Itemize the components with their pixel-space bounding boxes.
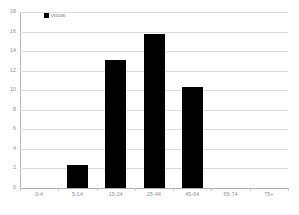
x-axis-tick-label: 45-64 (185, 192, 199, 197)
x-axis-tick-mark (97, 188, 98, 191)
x-axis-tick-label: 75+ (264, 192, 273, 197)
x-axis-tick-mark (288, 188, 289, 191)
y-axis-tick-label: 10 (0, 88, 16, 93)
x-axis-tick-mark (135, 188, 136, 191)
bar (144, 34, 165, 188)
legend-swatch-vrouw (44, 13, 49, 18)
y-axis-tick-label: 4 (0, 146, 16, 151)
legend: vrouw (44, 13, 65, 18)
plot-area (20, 12, 288, 188)
x-axis-tick-mark (173, 188, 174, 191)
x-axis-tick-label: 0-4 (35, 192, 43, 197)
x-axis-tick-mark (250, 188, 251, 191)
bar (105, 60, 126, 188)
x-axis-tick-label: 25-44 (147, 192, 161, 197)
x-axis-tick-mark (20, 188, 21, 191)
y-axis-tick-label: 12 (0, 68, 16, 73)
x-axis-tick-label: 15-24 (109, 192, 123, 197)
legend-label-vrouw: vrouw (51, 13, 65, 18)
bar (182, 87, 203, 188)
bar (67, 165, 88, 188)
y-axis-line (20, 12, 21, 188)
y-axis-tick-label: 16 (0, 29, 16, 34)
y-axis-tick-label: 2 (0, 166, 16, 171)
y-axis-tick-label: 18 (0, 9, 16, 14)
gridline (20, 32, 288, 33)
y-axis-tick-label: 14 (0, 49, 16, 54)
y-axis-tick-label: 0 (0, 185, 16, 190)
x-axis-tick-mark (211, 188, 212, 191)
y-axis-tick-label: 8 (0, 107, 16, 112)
chart-screenshot: 024681012141618 0-45-1415-2425-4445-6465… (0, 0, 299, 215)
x-axis-tick-mark (58, 188, 59, 191)
y-axis-tick-label: 6 (0, 127, 16, 132)
x-axis-tick-label: 5-14 (72, 192, 83, 197)
x-axis-tick-label: 65-74 (224, 192, 238, 197)
gridline (20, 188, 288, 189)
